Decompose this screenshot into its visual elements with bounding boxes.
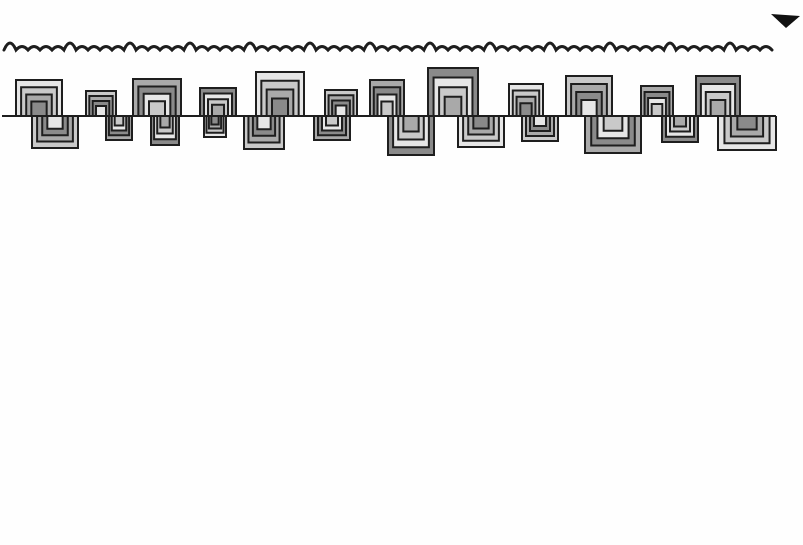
corner-ink-mark	[771, 14, 800, 28]
nested-square-stroke	[581, 100, 596, 116]
nested-square-stroke	[257, 116, 270, 129]
nested-square-stroke	[445, 97, 462, 116]
nested-square-stroke	[115, 116, 124, 126]
wavy-squiggle-border	[4, 43, 772, 50]
nested-square-stroke	[336, 106, 347, 116]
nested-square-stroke	[711, 100, 726, 116]
nested-square-stroke	[96, 106, 106, 116]
doodle-canvas: Hand-drawn marker doodle on white paper:…	[0, 0, 803, 545]
nested-square-stroke	[47, 116, 62, 129]
nested-square-stroke	[212, 105, 224, 116]
meander-shapes	[16, 68, 776, 155]
nested-square-stroke	[326, 116, 338, 126]
nested-square-stroke	[149, 101, 165, 116]
nested-square-stroke	[211, 116, 218, 124]
nested-square-stroke	[381, 102, 392, 116]
nested-square-stroke	[534, 116, 546, 126]
nested-square-stroke	[604, 116, 623, 131]
nested-square-stroke	[737, 116, 756, 130]
nested-square-stroke	[272, 98, 288, 116]
nested-square-stroke	[520, 103, 531, 116]
nested-square-stroke	[403, 116, 418, 132]
nested-square-stroke	[31, 102, 46, 116]
nested-square-stroke	[674, 116, 686, 126]
nested-square-stroke	[160, 116, 169, 128]
nested-square-stroke	[652, 104, 663, 116]
nested-square-stroke	[473, 116, 488, 128]
doodle-drawing	[0, 0, 803, 545]
